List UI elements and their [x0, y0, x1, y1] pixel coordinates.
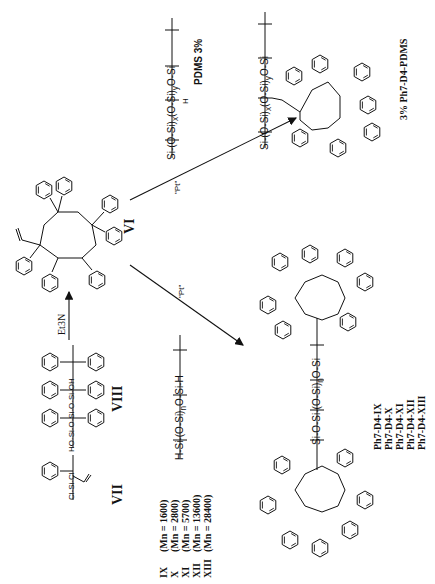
- pdms-h-chain-text: Si-(O-Si)x(O-Si)yO-Si: [166, 66, 180, 160]
- viii-formula: HO-Si-O-Si-O-Si-OH: [67, 378, 76, 452]
- pdms-h-side-atom: H: [181, 98, 190, 104]
- molecular-weight-list: IX(Mn = 1600) X(Mn = 2800) XI(Mn = 5700)…: [158, 495, 213, 578]
- bottom-product-chain-text: Si-O-Si-(O-Si)nO-Si: [311, 358, 325, 445]
- pdms-label: PDMS 3%: [193, 39, 204, 85]
- reagent-pt-top: "Pt": [173, 181, 182, 194]
- mw-row-x: X(Mn = 2800): [169, 495, 180, 578]
- product-ix: Ph7-D4-IX: [372, 396, 383, 450]
- h-pdms-h-chain-text: H-Si-(O-Si)nO-Si-H: [174, 375, 188, 460]
- arrow-pt-bottom: [130, 265, 243, 345]
- vii-formula: Cl-Si-Cl: [67, 472, 76, 500]
- top-product-chain-text: Si-(O-Si)x(O-Si)yO-Si: [259, 56, 273, 150]
- reagent-pt-bottom: "Pt": [177, 285, 186, 298]
- top-product-label: 3% Ph7-D4-PDMS: [398, 39, 409, 120]
- mw-row-xi: XI(Mn = 5700): [180, 495, 191, 578]
- top-product-structure: [258, 12, 380, 157]
- label-vi: VI: [122, 218, 138, 234]
- mw-row-ix: IX(Mn = 1600): [158, 495, 169, 578]
- label-vii: VII: [110, 484, 126, 505]
- reagent-et3n: Et3N: [56, 314, 67, 335]
- label-viii: VIII: [110, 386, 126, 412]
- mw-row-xii: XII(Mn = 13600): [191, 495, 202, 578]
- mw-row-xiii: XIII(Mn = 28400): [202, 495, 213, 578]
- compound-vi-structure: [16, 177, 122, 292]
- product-x: Ph7-D4-X: [383, 396, 394, 450]
- product-xi: Ph7-D4-XI: [394, 396, 405, 450]
- product-xiii: Ph7-D4-XIII: [416, 396, 427, 450]
- product-xii: Ph7-D4-XII: [405, 396, 416, 450]
- reaction-scheme: [0, 0, 435, 584]
- product-list: Ph7-D4-IX Ph7-D4-X Ph7-D4-XI Ph7-D4-XII …: [372, 396, 427, 450]
